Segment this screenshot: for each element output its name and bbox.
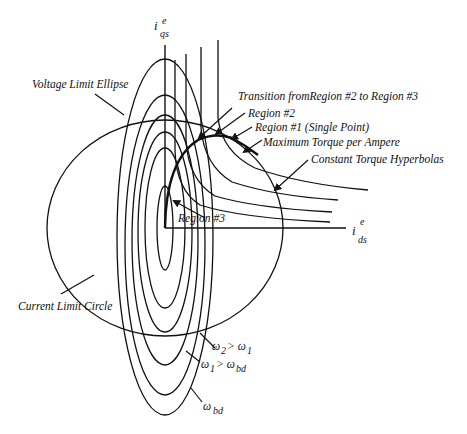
current-limit-circle-label: Current Limit Circle: [18, 300, 112, 312]
w2-base: ω: [212, 340, 220, 352]
w1-gt-wbd-label: ω 1 > ω bd: [201, 358, 247, 374]
current-circle-leader: [61, 275, 94, 294]
w2-sub: 2: [221, 345, 226, 356]
region2-arrow: [216, 113, 245, 134]
w1-sub2: bd: [236, 363, 247, 374]
w1-rel: > ω: [216, 358, 235, 370]
ids-symbol: i: [352, 223, 356, 238]
region1-label: Region #1 (Single Point): [254, 121, 369, 134]
region2-label: Region #2: [247, 107, 295, 120]
w1-base: ω: [201, 358, 209, 370]
region1-arrow: [232, 127, 252, 139]
w2-gt-w1-label: ω 2 > ω 1: [212, 340, 252, 356]
mtpa-label: Maximum Torque per Ampere: [262, 136, 400, 149]
ids-subscript: ds: [358, 234, 367, 245]
iqs-subscript: qs: [160, 28, 169, 39]
voltage-ellipse-leader: [95, 94, 124, 115]
torque-hyperbola-2: [186, 54, 332, 212]
iqs-symbol: i: [154, 18, 158, 33]
pmsm-operating-regions-diagram: i qs e i ds e Voltage Limit Ellipse Tran…: [0, 0, 467, 434]
region3-label: Region #3: [177, 212, 225, 225]
ids-axis-label: i ds e: [352, 216, 367, 245]
wbd-base: ω: [203, 400, 211, 412]
wbd-leader: [191, 388, 202, 402]
iqs-axis-label: i qs e: [154, 15, 169, 39]
ids-superscript: e: [360, 216, 365, 227]
w2-sub2: 1: [247, 345, 252, 356]
wbd-sub: bd: [213, 405, 224, 416]
wbd-label: ω bd: [203, 400, 224, 416]
w2-rel: > ω: [227, 340, 246, 352]
w1-sub: 1: [210, 363, 215, 374]
transition-arrow: [199, 108, 232, 138]
transition-label: Transition fromRegion #2 to Region #3: [238, 90, 418, 103]
voltage-limit-ellipse-label: Voltage Limit Ellipse: [32, 78, 128, 91]
hyperbolas-label: Constant Torque Hyperbolas: [311, 153, 444, 166]
iqs-superscript: e: [162, 15, 167, 26]
